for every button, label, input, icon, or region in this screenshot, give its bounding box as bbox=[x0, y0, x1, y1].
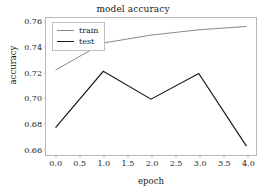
y-tick-label: 0.66 bbox=[24, 145, 42, 154]
x-tick-label: 1.5 bbox=[122, 159, 135, 168]
y-tick-mark bbox=[44, 46, 47, 47]
x-tick-mark bbox=[224, 155, 225, 158]
y-axis-label: accuracy bbox=[8, 25, 18, 105]
x-tick-label: 0.5 bbox=[73, 159, 86, 168]
y-tick-label: 0.70 bbox=[24, 94, 42, 103]
x-tick-mark bbox=[79, 155, 80, 158]
legend-item-train: train bbox=[57, 25, 99, 36]
x-tick-label: 4.0 bbox=[242, 159, 255, 168]
x-tick-mark bbox=[103, 155, 104, 158]
y-tick-label: 0.76 bbox=[24, 17, 42, 26]
y-tick-label: 0.72 bbox=[24, 68, 42, 77]
series-line-test bbox=[56, 71, 247, 146]
legend: train test bbox=[52, 22, 105, 51]
x-tick-mark bbox=[200, 155, 201, 158]
legend-item-test: test bbox=[57, 36, 99, 47]
y-tick-mark bbox=[44, 149, 47, 150]
legend-swatch-test bbox=[57, 41, 74, 42]
y-tick-mark bbox=[44, 21, 47, 22]
x-tick-label: 0.0 bbox=[49, 159, 62, 168]
x-tick-mark bbox=[248, 155, 249, 158]
y-tick-mark bbox=[44, 72, 47, 73]
plot-area: 0.660.680.700.720.740.76 0.00.51.01.52.0… bbox=[45, 17, 257, 156]
x-tick-label: 1.0 bbox=[97, 159, 110, 168]
x-tick-mark bbox=[176, 155, 177, 158]
x-tick-mark bbox=[152, 155, 153, 158]
x-tick-mark bbox=[127, 155, 128, 158]
x-tick-mark bbox=[55, 155, 56, 158]
y-tick-mark bbox=[44, 98, 47, 99]
x-tick-label: 3.5 bbox=[218, 159, 231, 168]
x-tick-label: 2.5 bbox=[170, 159, 183, 168]
y-tick-label: 0.74 bbox=[24, 42, 42, 51]
y-tick-mark bbox=[44, 124, 47, 125]
x-tick-label: 2.0 bbox=[146, 159, 159, 168]
chart-title: model accuracy bbox=[0, 4, 266, 14]
legend-swatch-train bbox=[57, 30, 74, 31]
chart-figure: model accuracy accuracy epoch 0.660.680.… bbox=[0, 0, 266, 191]
x-axis-label: epoch bbox=[45, 176, 257, 186]
x-tick-label: 3.0 bbox=[194, 159, 207, 168]
legend-label-test: test bbox=[79, 38, 94, 46]
legend-label-train: train bbox=[79, 27, 99, 35]
y-tick-label: 0.68 bbox=[24, 120, 42, 129]
